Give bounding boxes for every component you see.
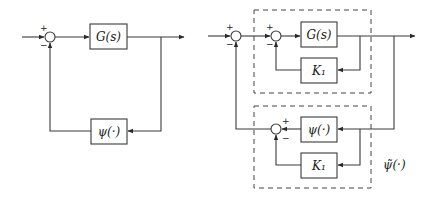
right-diagram: + − + − G(s) K₁ ψ(·) + − K₁ ψ̃(·) (208, 10, 415, 188)
inner-sum-plus-sign: + (266, 22, 274, 32)
outer-sum-minus-sign: − (226, 39, 234, 49)
left-return-line (50, 43, 91, 131)
psi-tilde-label: ψ̃(·) (383, 158, 406, 172)
left-g-label: G(s) (96, 30, 121, 44)
inner-feedback-line (338, 36, 360, 70)
inner-return-line (276, 42, 301, 70)
right-g-label: G(s) (306, 28, 331, 42)
left-psi-label: ψ(·) (98, 125, 121, 139)
left-feedback-line (128, 37, 161, 131)
left-sum-minus-sign: − (40, 40, 48, 50)
inner-sum-minus-sign: − (266, 39, 274, 49)
lower-sum-minus-sign: − (282, 133, 290, 143)
left-diagram: + − G(s) ψ(·) (22, 23, 184, 144)
upper-k1-label: K₁ (311, 64, 326, 78)
lower-sum-plus-sign: + (282, 116, 290, 126)
lower-k1-label: K₁ (311, 159, 326, 173)
left-sum-plus-sign: + (40, 23, 48, 33)
outer-feedback-line (338, 36, 394, 129)
lower-psi-label: ψ(·) (308, 123, 331, 137)
lower-summing-junction (271, 124, 281, 134)
lower-k1-feed-line (338, 129, 360, 165)
block-diagram-figure: + − G(s) ψ(·) + − + − G(s) K₁ ψ(·) (0, 0, 428, 201)
outer-sum-plus-sign: + (226, 22, 234, 32)
